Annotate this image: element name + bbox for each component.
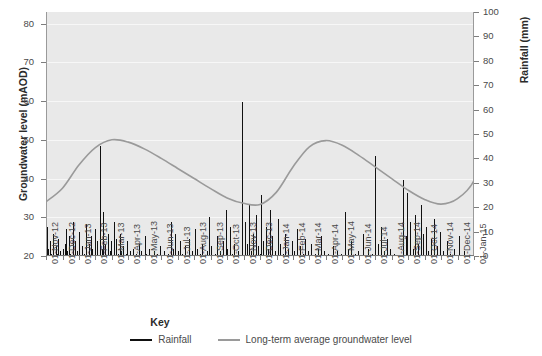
x-axis-tick-label: 01-Jun-14 xyxy=(363,223,373,264)
x-axis-tick-mark xyxy=(128,256,129,260)
legend-label: Rainfall xyxy=(158,334,191,345)
y-axis-right-tick-mark xyxy=(474,85,479,86)
x-axis-tick-label: 01-Jun-13 xyxy=(165,223,175,264)
x-axis-tick-label: 01-Jul-13 xyxy=(182,226,192,264)
y-axis-right-tick-mark xyxy=(474,134,479,135)
x-axis-tick-label: 01-Apr-14 xyxy=(330,224,340,264)
y-axis-right-tick-mark xyxy=(474,158,479,159)
x-axis-tick-mark xyxy=(359,256,360,260)
legend-line-icon xyxy=(130,339,152,341)
x-axis-tick-label: 01-Jan-13 xyxy=(83,223,93,264)
plot-border-left xyxy=(46,12,47,256)
key-title: Key xyxy=(0,316,320,328)
x-axis-tick-mark xyxy=(95,256,96,260)
y-axis-right-tick-label: 80 xyxy=(483,55,509,66)
groundwater-trend-line xyxy=(46,12,474,256)
x-axis-tick-mark xyxy=(244,256,245,260)
x-axis-tick-label: 01-Feb-14 xyxy=(297,222,307,264)
x-axis-tick-label: 01-Jan-14 xyxy=(281,223,291,264)
legend: RainfallLong-term average groundwater le… xyxy=(0,334,542,345)
y-axis-right-title: Rainfall (mm) xyxy=(518,0,530,130)
y-axis-right-tick-label: 100 xyxy=(483,6,509,17)
x-axis-tick-label: 01-Oct-13 xyxy=(231,224,241,264)
legend-line-icon xyxy=(218,339,240,341)
x-axis-tick-mark xyxy=(112,256,113,260)
legend-item[interactable]: Rainfall xyxy=(130,334,191,345)
y-axis-left-tick-label: 60 xyxy=(8,95,34,106)
legend-label: Long-term average groundwater level xyxy=(246,334,412,345)
y-axis-right-tick-label: 90 xyxy=(483,30,509,41)
x-axis-tick-label: 01-Sep-14 xyxy=(412,222,422,264)
x-axis-tick-mark xyxy=(441,256,442,260)
x-axis-tick-label: 01-Dec-14 xyxy=(462,222,472,264)
y-axis-right-tick-mark xyxy=(474,183,479,184)
x-axis-tick-label: 01-Apr-13 xyxy=(132,224,142,264)
plot-border-right xyxy=(473,12,474,256)
x-axis-tick-label: 01-Mar-14 xyxy=(313,222,323,264)
x-axis-tick-mark xyxy=(458,256,459,260)
y-axis-right-tick-label: 40 xyxy=(483,152,509,163)
x-axis-tick-mark xyxy=(408,256,409,260)
x-axis-tick-label: 01-Nov-14 xyxy=(445,222,455,264)
y-axis-left-tick-label: 80 xyxy=(8,18,34,29)
x-axis-tick-mark xyxy=(342,256,343,260)
x-axis-tick-mark xyxy=(145,256,146,260)
y-axis-left-tick-label: 70 xyxy=(8,56,34,67)
x-axis-tick-label: 01-Nov-12 xyxy=(50,222,60,264)
x-axis-tick-label: 01-Feb-13 xyxy=(99,222,109,264)
y-axis-right-tick-label: 20 xyxy=(483,201,509,212)
x-axis-tick-mark xyxy=(392,256,393,260)
y-axis-left-tick-label: 50 xyxy=(8,134,34,145)
y-axis-right-tick-mark xyxy=(474,12,479,13)
x-axis-tick-mark xyxy=(194,256,195,260)
x-axis-tick-mark xyxy=(277,256,278,260)
y-axis-right-tick-label: 30 xyxy=(483,177,509,188)
y-axis-left-tick-label: 30 xyxy=(8,211,34,222)
x-axis-tick-label: 01-Nov-13 xyxy=(248,222,258,264)
x-axis-tick-mark xyxy=(326,256,327,260)
y-axis-right-tick-label: 50 xyxy=(483,128,509,139)
legend-item[interactable]: Long-term average groundwater level xyxy=(218,334,412,345)
x-axis-tick-mark xyxy=(293,256,294,260)
x-axis-tick-mark xyxy=(46,256,47,260)
x-axis-tick-label: 01-Dec-12 xyxy=(67,222,77,264)
x-axis-tick-label: 01-May-13 xyxy=(149,221,159,264)
y-axis-right-tick-label: 60 xyxy=(483,104,509,115)
y-axis-right-tick-label: 70 xyxy=(483,79,509,90)
x-axis-tick-mark xyxy=(474,256,475,260)
x-axis-tick-mark xyxy=(309,256,310,260)
x-axis-tick-mark xyxy=(161,256,162,260)
x-axis-tick-mark xyxy=(260,256,261,260)
y-axis-left-tick-label: 40 xyxy=(8,173,34,184)
y-axis-left-tick-label: 20 xyxy=(8,250,34,261)
y-axis-right-tick-mark xyxy=(474,207,479,208)
y-axis-right-tick-mark xyxy=(474,110,479,111)
rainfall-groundwater-chart: Groundwater level (mAOD) Rainfall (mm) 2… xyxy=(0,0,542,356)
x-axis-tick-label: 01-Jul-14 xyxy=(379,226,389,264)
plot-area xyxy=(46,12,474,256)
x-axis-tick-label: 01-May-14 xyxy=(346,221,356,264)
x-axis-tick-label: 01-Dec-13 xyxy=(264,222,274,264)
x-axis-tick-label: 01-Sep-13 xyxy=(215,222,225,264)
x-axis-tick-mark xyxy=(79,256,80,260)
y-axis-right-tick-mark xyxy=(474,61,479,62)
x-axis-tick-mark xyxy=(211,256,212,260)
x-axis-tick-label: 01-Oct-14 xyxy=(429,224,439,264)
x-axis-tick-mark xyxy=(63,256,64,260)
y-axis-right-tick-mark xyxy=(474,36,479,37)
x-axis-tick-mark xyxy=(375,256,376,260)
x-axis-tick-label: 01-Aug-14 xyxy=(396,222,406,264)
x-axis-tick-label: 01-Jan-15 xyxy=(478,223,488,264)
x-axis-tick-label: 01-Aug-13 xyxy=(198,222,208,264)
x-axis-tick-mark xyxy=(227,256,228,260)
x-axis-tick-label: 01-Mar-13 xyxy=(116,222,126,264)
x-axis-tick-mark xyxy=(178,256,179,260)
x-axis-tick-mark xyxy=(425,256,426,260)
